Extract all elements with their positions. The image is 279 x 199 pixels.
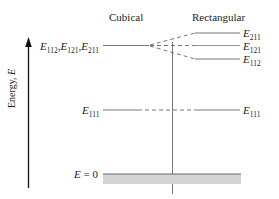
cubical-heading: Cubical bbox=[109, 11, 143, 23]
label-e111-right: E111 bbox=[242, 104, 261, 119]
energy-level-diagram: Cubical Rectangular Energy, E E112,E121,… bbox=[0, 0, 279, 199]
cubical-degenerate-level bbox=[103, 33, 195, 59]
label-e112: E112 bbox=[242, 53, 261, 68]
energy-axis-arrow-icon bbox=[25, 37, 32, 188]
zero-energy-label: E = 0 bbox=[73, 168, 98, 180]
label-e111-left: E111 bbox=[81, 104, 100, 119]
rectangular-split-levels bbox=[195, 33, 240, 59]
energy-axis-label: Energy, E bbox=[6, 69, 17, 108]
zero-energy-band bbox=[103, 174, 241, 184]
cubical-degenerate-label: E112,E121,E211 bbox=[39, 40, 99, 55]
rectangular-heading: Rectangular bbox=[192, 11, 245, 23]
